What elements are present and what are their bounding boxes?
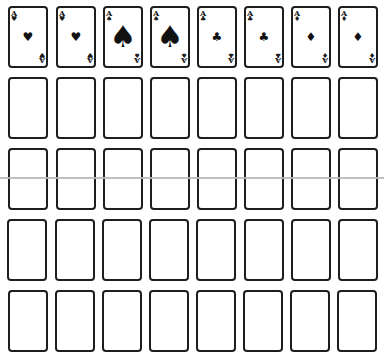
empty-card-slot[interactable] bbox=[7, 219, 47, 281]
ace-card-5[interactable]: A ♣ ♣ A ♣ bbox=[197, 6, 237, 68]
card-corner-bottom: A ♠ bbox=[181, 51, 187, 65]
club-icon: ♣ bbox=[200, 16, 206, 23]
empty-card-slot[interactable] bbox=[8, 148, 48, 210]
empty-card-slot[interactable] bbox=[244, 219, 284, 281]
empty-card-slot[interactable] bbox=[103, 77, 143, 139]
club-icon: ♣ bbox=[259, 31, 270, 43]
card-corner-bottom: A ♥ bbox=[39, 51, 45, 65]
empty-card-slot[interactable] bbox=[55, 219, 95, 281]
diamond-icon: ♦ bbox=[353, 31, 364, 43]
empty-card-slot[interactable] bbox=[197, 77, 237, 139]
empty-card-slot[interactable] bbox=[197, 148, 237, 210]
empty-card-slot[interactable] bbox=[8, 77, 48, 139]
diamond-icon: ♦ bbox=[322, 51, 328, 58]
ace-card-2[interactable]: A ♥ ♥ A ♥ bbox=[56, 6, 96, 68]
spade-icon: ♠ bbox=[134, 51, 140, 58]
empty-card-slot[interactable] bbox=[55, 290, 95, 352]
diamond-icon: ♦ bbox=[294, 16, 300, 23]
empty-card-slot[interactable] bbox=[290, 290, 330, 352]
card-corner-top: A ♣ bbox=[200, 9, 206, 23]
club-icon: ♣ bbox=[275, 51, 281, 58]
spade-icon: ♠ bbox=[181, 51, 187, 58]
empty-card-slot[interactable] bbox=[338, 77, 378, 139]
heart-icon: ♥ bbox=[11, 16, 17, 23]
empty-card-slot[interactable] bbox=[338, 148, 378, 210]
card-corner-bottom: A ♦ bbox=[322, 51, 328, 65]
card-corner-top: A ♥ bbox=[11, 9, 17, 23]
card-corner-top: A ♦ bbox=[294, 9, 300, 23]
heart-icon: ♥ bbox=[39, 51, 45, 58]
card-corner-bottom: A ♦ bbox=[369, 51, 375, 65]
empty-card-slot[interactable] bbox=[56, 148, 96, 210]
empty-card-slot[interactable] bbox=[291, 219, 331, 281]
ace-card-8[interactable]: A ♦ ♦ A ♦ bbox=[338, 6, 378, 68]
heart-icon: ♥ bbox=[59, 16, 65, 23]
ace-card-1[interactable]: A ♥ ♥ A ♥ bbox=[8, 6, 48, 68]
empty-card-slot[interactable] bbox=[56, 77, 96, 139]
card-corner-top: A ♥ bbox=[59, 9, 65, 23]
card-corner-bottom: A ♣ bbox=[228, 51, 234, 65]
heart-icon: ♥ bbox=[23, 31, 34, 43]
card-corner-bottom: A ♠ bbox=[134, 51, 140, 65]
empty-card-slot[interactable] bbox=[196, 219, 236, 281]
empty-card-slot[interactable] bbox=[8, 290, 48, 352]
empty-card-slot[interactable] bbox=[102, 290, 142, 352]
empty-card-slot[interactable] bbox=[149, 219, 189, 281]
diamond-icon: ♦ bbox=[306, 31, 317, 43]
empty-card-slot[interactable] bbox=[149, 290, 189, 352]
ace-card-6[interactable]: A ♣ ♣ A ♣ bbox=[244, 6, 284, 68]
spade-icon: ♠ bbox=[110, 22, 137, 52]
empty-card-slot[interactable] bbox=[150, 77, 190, 139]
empty-card-slot[interactable] bbox=[337, 290, 377, 352]
divider-line bbox=[0, 177, 384, 179]
empty-card-slot[interactable] bbox=[150, 148, 190, 210]
empty-card-slot[interactable] bbox=[244, 148, 284, 210]
empty-card-slot[interactable] bbox=[243, 290, 283, 352]
card-board: A ♥ ♥ A ♥ A ♥ ♥ A ♥ A ♠ ♠ A ♠ A bbox=[0, 0, 384, 358]
empty-card-slot[interactable] bbox=[291, 77, 331, 139]
club-icon: ♣ bbox=[212, 31, 223, 43]
empty-card-slot[interactable] bbox=[244, 77, 284, 139]
card-corner-top: A ♣ bbox=[247, 9, 253, 23]
empty-card-slot[interactable] bbox=[102, 219, 142, 281]
ace-card-4[interactable]: A ♠ ♠ A ♠ bbox=[150, 6, 190, 68]
ace-card-3[interactable]: A ♠ ♠ A ♠ bbox=[103, 6, 143, 68]
diamond-icon: ♦ bbox=[341, 16, 347, 23]
empty-card-slot[interactable] bbox=[196, 290, 236, 352]
ace-card-7[interactable]: A ♦ ♦ A ♦ bbox=[291, 6, 331, 68]
card-corner-bottom: A ♥ bbox=[87, 51, 93, 65]
card-corner-top: A ♦ bbox=[341, 9, 347, 23]
empty-card-slot[interactable] bbox=[103, 148, 143, 210]
card-corner-bottom: A ♣ bbox=[275, 51, 281, 65]
club-icon: ♣ bbox=[247, 16, 253, 23]
empty-card-slot[interactable] bbox=[338, 219, 378, 281]
spade-icon: ♠ bbox=[157, 22, 184, 52]
club-icon: ♣ bbox=[228, 51, 234, 58]
heart-icon: ♥ bbox=[71, 31, 82, 43]
empty-card-slot[interactable] bbox=[291, 148, 331, 210]
heart-icon: ♥ bbox=[87, 51, 93, 58]
diamond-icon: ♦ bbox=[369, 51, 375, 58]
